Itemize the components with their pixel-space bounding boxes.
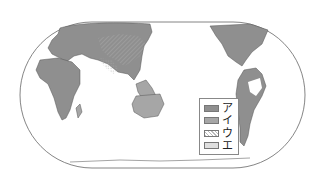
legend-item-a: ア [204,102,235,115]
world-map [0,0,313,179]
legend-label: イ [222,115,233,126]
legend-item-u: ウ [204,127,235,140]
legend-label: ウ [222,128,233,139]
legend-swatch-solid-dark [204,105,219,112]
legend-swatch-solid [204,117,219,124]
legend-item-i: イ [204,115,235,128]
legend-item-e: エ [204,140,235,153]
legend-swatch-dotted [204,142,219,149]
legend-label: エ [222,140,233,151]
legend-swatch-hatched [204,130,219,137]
legend-label: ア [222,103,233,114]
map-legend: ア イ ウ エ [199,98,239,155]
